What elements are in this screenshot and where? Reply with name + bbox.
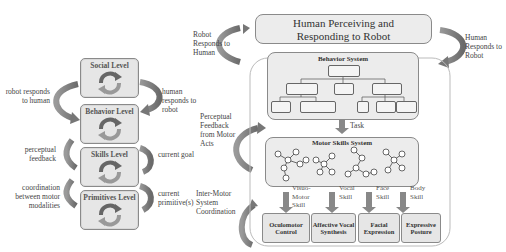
face-skill-label: Face Skill [376,184,396,201]
human-perceiving-box: Human Perceiving and Responding to Robot [255,14,432,44]
cycle-icon [97,117,123,141]
behavior-level-box: Behavior Level [80,104,139,144]
human-box-line1: Human Perceiving and [256,17,431,30]
skills-level-box: Skills Level [80,147,139,187]
vocal-skill-label: Vocal Skill [339,184,361,201]
inter-motor-label: Inter-Motor System Coordination [196,189,240,216]
cycle-icon [97,160,123,184]
coordination-label: coordination between motor modalities [2,183,60,210]
perceptual-feedback-motor-label: Perceptual Feedback from Motor Acts [200,112,244,148]
expressive-posture-box: Expressive Posture [401,213,441,243]
primitives-level-box: Primitives Level [80,190,139,230]
cycle-icon [97,203,123,227]
motor-skills-system-box: Motor Skills System [265,137,419,187]
human-responds-label: human responds to robot [162,87,210,114]
current-goal-label: current goal [158,150,208,159]
robot-responds-to-human-label: Robot Responds to Human [193,30,233,57]
behavior-level-label: Behavior Level [81,107,138,116]
perceptual-feedback-label: perceptual feedback [4,145,56,163]
primitives-level-label: Primitives Level [81,193,138,202]
human-responds-arrow [140,82,160,110]
social-level-label: Social Level [81,61,138,70]
affective-vocal-synthesis-box: Affective Vocal Synthesis [311,213,356,243]
skills-level-label: Skills Level [81,150,138,159]
task-label: Task [350,121,364,130]
human-responds-to-robot-label: Human Responds to Robot [465,33,505,60]
robot-responds-label: robot responds to human [4,87,50,105]
oculomotor-control-box: Oculomotor Control [262,213,310,243]
robot-responds-arrow [56,84,78,118]
skill-networks [266,138,418,186]
body-skill-label: Body Skill [410,184,430,201]
visuo-motor-skill-label: Visuo-Motor Skill [292,184,316,210]
behavior-system-box: Behavior System [267,52,419,120]
facial-expression-box: Facial Expression [358,213,400,243]
cycle-icon [97,71,123,95]
social-level-box: Social Level [80,58,139,98]
human-box-line2: Responding to Robot [256,30,431,43]
